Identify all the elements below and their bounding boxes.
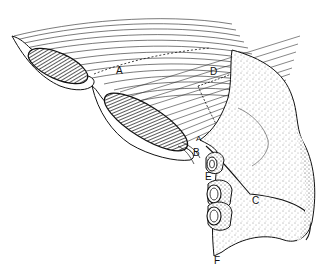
vessel-tube-lower bbox=[207, 202, 232, 230]
label-a-secondary: A bbox=[196, 134, 202, 143]
label-d: D bbox=[210, 66, 217, 77]
label-b: B bbox=[193, 147, 200, 158]
muscle-cross-section-lower bbox=[92, 83, 195, 161]
label-e: E bbox=[205, 171, 212, 182]
anatomical-illustration: A A B C D E F bbox=[0, 0, 328, 272]
label-c: C bbox=[252, 195, 259, 206]
label-a: A bbox=[116, 65, 123, 76]
label-f: F bbox=[214, 255, 220, 266]
